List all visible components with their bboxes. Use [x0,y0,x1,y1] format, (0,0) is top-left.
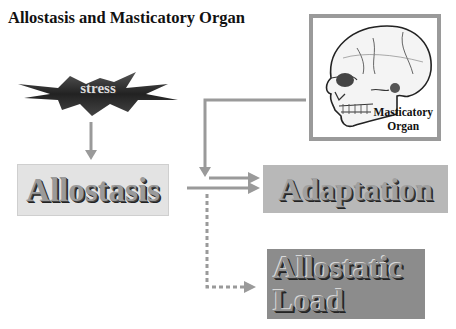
masticatory-organ-box: Masticatory Organ [309,14,441,141]
allostatic-load-box: Allostatic Load [267,249,425,319]
arrow-masticatory-to-adaptation [205,100,306,167]
adaptation-label: Adaptation [278,171,433,208]
masticatory-organ-label: Masticatory Organ [374,105,433,133]
arrow-allostasis-to-allostatic-load [207,194,244,287]
adaptation-box: Adaptation [263,165,448,213]
allostasis-box: Allostasis [17,164,169,216]
allostatic-load-line2: Load [273,284,344,317]
allostatic-load-line1: Allostatic [273,251,403,284]
diagram-title: Allostasis and Masticatory Organ [8,8,245,28]
stress-label: stress [18,80,178,97]
allostasis-label: Allostasis [26,172,160,209]
